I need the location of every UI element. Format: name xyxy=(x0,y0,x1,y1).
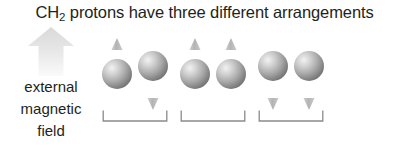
external-field-caption: external magnetic field xyxy=(2,76,100,142)
spin-group-2 xyxy=(178,36,248,131)
proton-2b-spin-up xyxy=(215,36,247,112)
spin-group-bracket-1 xyxy=(102,110,168,124)
external-field-line-2: magnetic xyxy=(2,98,100,120)
spin-down-icon xyxy=(293,36,325,112)
external-field-line-1: external xyxy=(2,76,100,98)
spin-up-icon xyxy=(215,36,247,112)
spin-group-3 xyxy=(256,36,326,131)
spin-pair-2 xyxy=(178,36,248,112)
spin-group-1 xyxy=(100,36,170,131)
spin-group-bracket-2 xyxy=(180,110,246,124)
spin-down-icon xyxy=(137,36,169,112)
spin-group-bracket-3 xyxy=(258,110,324,124)
proton-3a-spin-down xyxy=(257,36,289,112)
proton-2a-spin-up xyxy=(179,36,211,112)
spin-up-icon xyxy=(101,36,133,112)
figure-title: CH2 protons have three different arrange… xyxy=(0,3,409,22)
spin-pair-1 xyxy=(100,36,170,112)
proton-3b-spin-down xyxy=(293,36,325,112)
spin-arrangements xyxy=(100,36,340,131)
spin-down-icon xyxy=(257,36,289,112)
spin-pair-3 xyxy=(256,36,326,112)
external-field-arrow-wrap xyxy=(2,26,100,76)
external-field-block: external magnetic field xyxy=(2,26,100,76)
bracket-icon xyxy=(180,110,246,124)
bracket-icon xyxy=(102,110,168,124)
figure-title-subscript: 2 xyxy=(59,11,65,23)
external-field-arrow-icon xyxy=(26,26,76,76)
figure-title-prefix: CH xyxy=(35,3,59,21)
figure-title-rest: protons have three different arrangement… xyxy=(65,3,373,21)
external-field-line-3: field xyxy=(2,120,100,142)
proton-1a-spin-up xyxy=(101,36,133,112)
bracket-icon xyxy=(258,110,324,124)
proton-1b-spin-down xyxy=(137,36,169,112)
spin-up-icon xyxy=(179,36,211,112)
